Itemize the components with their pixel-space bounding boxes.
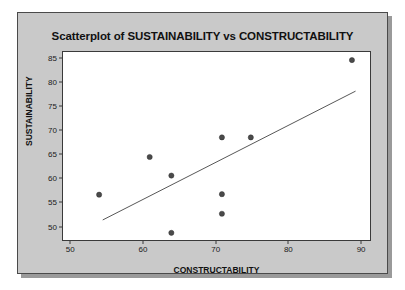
x-axis-tick-label: 80 (284, 245, 293, 254)
x-axis-tick-mark (70, 240, 71, 244)
scatterplot-screenshot: Scatterplot of SUSTAINABILITY vs CONSTRU… (0, 0, 405, 290)
x-axis-tick-mark (215, 240, 216, 244)
plot-canvas (63, 52, 370, 240)
y-axis-tick-mark (59, 154, 63, 155)
scatter-point (169, 230, 174, 235)
x-axis-tick-label: 60 (139, 245, 148, 254)
chart-title: Scatterplot of SUSTAINABILITY vs CONSTRU… (18, 30, 387, 42)
y-axis-tick-mark (59, 226, 63, 227)
y-axis-tick-label: 70 (48, 126, 57, 135)
scatter-point (248, 135, 253, 140)
y-axis-tick-label: 85 (48, 53, 57, 62)
scatter-point (219, 192, 224, 197)
y-axis-tick-label: 65 (48, 150, 57, 159)
x-axis-tick-mark (142, 240, 143, 244)
scatter-point (97, 192, 102, 197)
scatter-point (349, 58, 354, 63)
scatter-point (147, 154, 152, 159)
figure-panel: Scatterplot of SUSTAINABILITY vs CONSTRU… (17, 12, 388, 274)
scatter-point (219, 135, 224, 140)
y-axis-tick-label: 80 (48, 77, 57, 86)
y-axis-label: SUSTAINABILITY (24, 76, 34, 146)
plot-area: 50556065707580855060708090 (62, 51, 371, 241)
x-axis-tick-mark (361, 240, 362, 244)
y-axis-tick-mark (59, 57, 63, 58)
scatter-point (169, 173, 174, 178)
regression-line-segment (103, 91, 356, 220)
x-axis-label: CONSTRUCTABILITY (62, 265, 371, 275)
x-axis-tick-label: 70 (211, 245, 220, 254)
x-axis-tick-label: 50 (66, 245, 75, 254)
y-axis-tick-mark (59, 81, 63, 82)
y-axis-tick-mark (59, 130, 63, 131)
y-axis-tick-label: 55 (48, 198, 57, 207)
y-axis-tick-label: 75 (48, 102, 57, 111)
y-axis-tick-label: 60 (48, 174, 57, 183)
y-axis-tick-mark (59, 202, 63, 203)
x-axis-tick-label: 90 (357, 245, 366, 254)
data-points (97, 58, 355, 236)
y-axis-tick-label: 50 (48, 222, 57, 231)
regression-line (103, 91, 356, 220)
y-axis-tick-mark (59, 106, 63, 107)
scatter-point (219, 211, 224, 216)
y-axis-tick-mark (59, 178, 63, 179)
x-axis-tick-mark (288, 240, 289, 244)
